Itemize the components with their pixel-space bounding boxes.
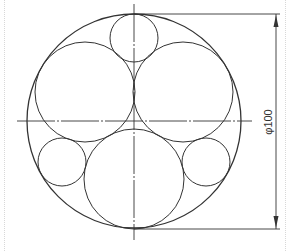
circle-packing-diagram: φ100 <box>0 0 289 251</box>
dimension-arrow-bottom-icon <box>274 216 279 228</box>
small-circle-right <box>182 138 230 186</box>
dimension-arrow-top-icon <box>274 15 279 27</box>
small-circle-left <box>38 138 86 186</box>
diameter-dimension-label: φ100 <box>262 109 274 135</box>
drawing-canvas: φ100 <box>0 0 289 251</box>
